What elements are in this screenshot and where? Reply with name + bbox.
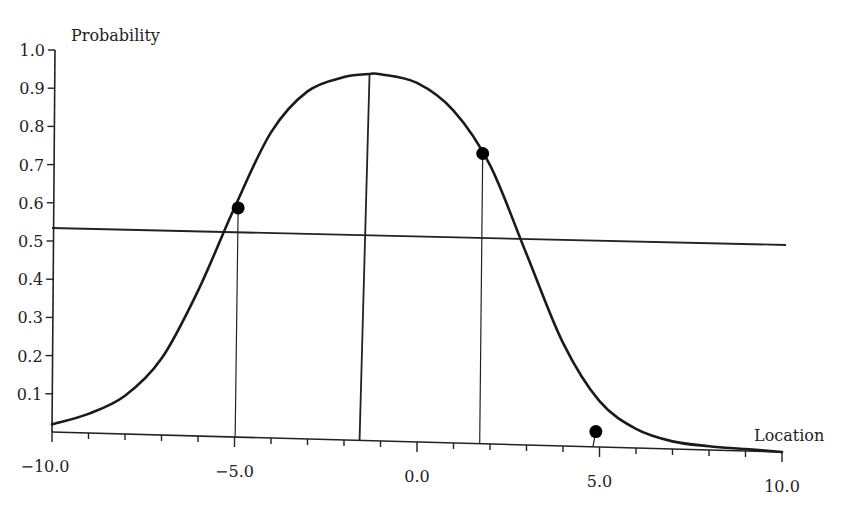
y-tick-label: 1.0 xyxy=(20,41,45,60)
probability-curve xyxy=(52,73,782,452)
point-drop-line xyxy=(235,208,238,437)
x-tick-label: 0.0 xyxy=(404,467,429,486)
x-tick-label: 5.0 xyxy=(587,472,612,491)
tick-marks xyxy=(45,50,782,462)
y-tick-labels: 1.00.90.80.70.60.50.40.30.20.1 xyxy=(17,41,45,404)
y-tick-label: 0.4 xyxy=(18,270,43,289)
reference-lines xyxy=(52,74,786,447)
data-point xyxy=(476,147,489,160)
x-tick-label: −5.0 xyxy=(215,462,254,481)
y-tick-label: 0.1 xyxy=(17,385,42,404)
y-tick-label: 0.2 xyxy=(17,347,42,366)
data-points xyxy=(232,147,603,438)
y-tick-label: 0.6 xyxy=(18,194,43,213)
point-drop-line xyxy=(480,153,483,443)
x-tick-label: −10.0 xyxy=(20,457,69,476)
y-tick-label: 0.7 xyxy=(19,156,44,175)
y-tick-label: 0.9 xyxy=(19,79,44,98)
y-tick-label: 0.8 xyxy=(19,117,44,136)
threshold-line xyxy=(52,228,786,245)
data-point xyxy=(232,201,245,214)
y-tick-label: 0.3 xyxy=(17,308,42,327)
y-tick-label: 0.5 xyxy=(18,232,43,251)
x-axis-title: Location xyxy=(754,426,824,445)
peak-line xyxy=(360,74,370,440)
axes xyxy=(52,50,782,452)
y-axis-title: Probability xyxy=(71,26,160,45)
data-point xyxy=(589,425,602,438)
x-tick-label: 10.0 xyxy=(764,477,800,496)
probability-chart: 1.00.90.80.70.60.50.40.30.20.1 −10.0−5.0… xyxy=(0,0,845,517)
x-tick-labels: −10.0−5.00.05.010.0 xyxy=(20,457,799,496)
